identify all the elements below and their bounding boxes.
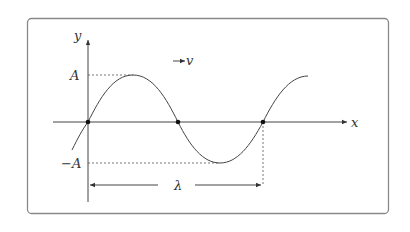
x-axis-label: x — [351, 115, 359, 130]
amplitude-neg-label: −A — [61, 156, 81, 171]
amplitude-pos-label: A — [69, 68, 79, 83]
wave-curve — [72, 75, 308, 163]
origin-node — [86, 120, 91, 125]
velocity-label: v — [186, 53, 194, 68]
y-axis-label: y — [73, 28, 82, 43]
end-node — [261, 120, 266, 125]
wavelength-label: λ — [173, 178, 182, 193]
diagram-frame — [28, 19, 389, 214]
mid-node — [176, 120, 181, 125]
wave-diagram: y x A −A λ v — [0, 0, 410, 232]
